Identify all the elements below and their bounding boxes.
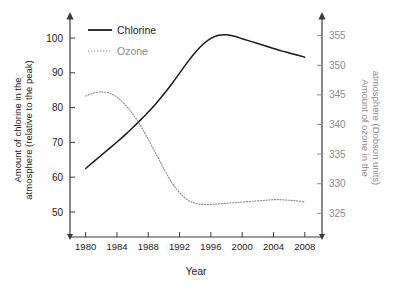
legend: ChlorineOzone: [88, 24, 156, 57]
y-tick-label: 90: [52, 67, 64, 78]
y2-axis-title-line1: Amount of ozone in the: [360, 79, 371, 177]
axis-titles: Amount of chlorine in theatmosphere (rel…: [12, 60, 382, 277]
y2-axis-title-line2: atmosphere (Dobson units): [371, 71, 382, 186]
y2-tick-label: 340: [329, 119, 346, 130]
x-tick-label: 1992: [169, 241, 190, 252]
y-axis-title-line2: atmosphere (relative to the peak): [23, 60, 34, 199]
y2-tick-label: 355: [329, 30, 346, 41]
x-tick-label: 1988: [138, 241, 159, 252]
x-tick-label: 1996: [200, 241, 221, 252]
y-tick-label: 70: [52, 137, 64, 148]
legend-label-ozone: Ozone: [117, 45, 148, 57]
x-tick-label: 2004: [263, 241, 284, 252]
y-axis-title-line1: Amount of chlorine in the: [12, 77, 23, 182]
y2-tick-label: 345: [329, 89, 346, 100]
series-line-ozone: [86, 92, 305, 205]
line-chart: 5060708090100325330335340345350355198019…: [0, 0, 393, 286]
legend-label-chlorine: Chlorine: [117, 24, 156, 36]
y2-tick-label: 350: [329, 60, 346, 71]
left-axis: 5060708090100: [46, 12, 75, 240]
chart-container: 5060708090100325330335340345350355198019…: [0, 0, 393, 286]
x-tick-label: 2008: [294, 241, 315, 252]
y-tick-label: 60: [52, 172, 64, 183]
x-tick-label: 1980: [75, 241, 96, 252]
y-tick-label: 100: [46, 33, 63, 44]
y-tick-label: 50: [52, 207, 64, 218]
x-axis-title: Year: [185, 265, 207, 277]
x-axis: 19801984198819921996200020042008: [70, 232, 322, 252]
x-tick-label: 2000: [232, 241, 253, 252]
y2-tick-label: 330: [329, 178, 346, 189]
y2-tick-label: 325: [329, 208, 346, 219]
right-axis: 325330335340345350355: [317, 12, 346, 240]
y-tick-label: 80: [52, 102, 64, 113]
x-tick-label: 1984: [106, 241, 127, 252]
y2-tick-label: 335: [329, 149, 346, 160]
